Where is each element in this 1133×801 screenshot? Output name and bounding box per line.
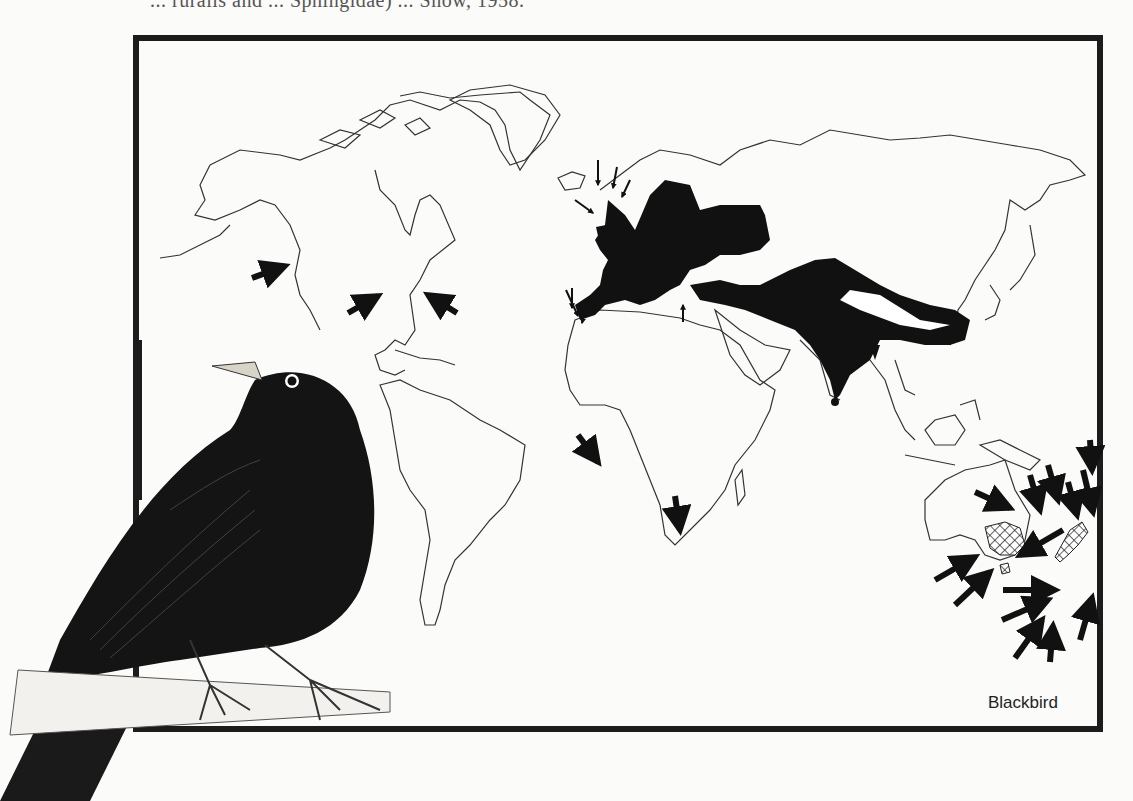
map-species-label: Blackbird bbox=[988, 693, 1058, 713]
blackbird-illustration bbox=[0, 340, 420, 801]
native-range bbox=[575, 180, 970, 406]
